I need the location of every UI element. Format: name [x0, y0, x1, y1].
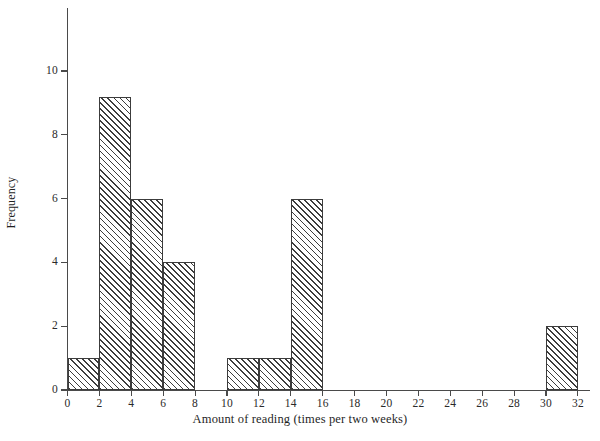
y-tick-label: 2 [32, 320, 58, 332]
x-tick [545, 391, 546, 396]
y-tick-label: 4 [32, 256, 58, 268]
x-tick-label: 10 [212, 397, 242, 409]
x-axis-line [67, 390, 590, 391]
x-tick-label: 20 [372, 397, 402, 409]
y-axis-line [67, 8, 68, 391]
x-tick-label: 6 [148, 397, 178, 409]
y-tick-label: 8 [32, 129, 58, 141]
y-tick-label-group: 2 [22, 320, 58, 332]
x-tick-label: 4 [116, 397, 146, 409]
x-tick [195, 391, 196, 396]
x-tick-label: 0 [53, 397, 83, 409]
histogram-chart: 0246810 02468101214161820222426283032 Fr… [0, 0, 600, 441]
histogram-bar [131, 199, 163, 390]
histogram-bar [259, 358, 291, 390]
x-tick-label: 2 [84, 397, 114, 409]
x-tick-label: 8 [180, 397, 210, 409]
y-axis-title: Frequency [4, 163, 19, 243]
x-tick [577, 391, 578, 396]
x-tick [386, 391, 387, 396]
x-tick [482, 391, 483, 396]
x-tick [67, 391, 68, 396]
x-tick [99, 391, 100, 396]
histogram-bar [227, 358, 259, 390]
x-tick [322, 391, 323, 396]
x-tick [450, 391, 451, 396]
x-axis-title: Amount of reading (times per two weeks) [0, 412, 600, 427]
x-tick [418, 391, 419, 396]
y-tick [61, 70, 67, 71]
x-tick [131, 391, 132, 396]
y-tick-label-group: 4 [22, 256, 58, 268]
y-tick-label-group: 6 [22, 193, 58, 205]
histogram-bar [163, 262, 195, 390]
x-tick-label: 14 [276, 397, 306, 409]
x-tick-label: 32 [563, 397, 593, 409]
histogram-bar [99, 97, 131, 390]
x-tick [163, 391, 164, 396]
y-tick-label-group: 10 [22, 65, 58, 77]
y-tick-label: 10 [32, 65, 58, 77]
x-tick [226, 391, 227, 396]
histogram-bar [68, 358, 100, 390]
x-tick-label: 12 [244, 397, 274, 409]
x-tick [354, 391, 355, 396]
x-tick [258, 391, 259, 396]
y-tick-label-group: 8 [22, 129, 58, 141]
histogram-bar [291, 199, 323, 390]
x-tick [290, 391, 291, 396]
x-tick [514, 391, 515, 396]
y-tick [61, 198, 67, 199]
x-tick-label: 18 [340, 397, 370, 409]
y-tick [61, 262, 67, 263]
histogram-bar [546, 326, 578, 390]
y-tick-label: 6 [32, 193, 58, 205]
x-tick-label: 30 [531, 397, 561, 409]
x-tick-label: 22 [403, 397, 433, 409]
x-tick-label: 26 [467, 397, 497, 409]
y-tick-label: 0 [32, 384, 58, 396]
y-tick [61, 326, 67, 327]
y-tick [61, 134, 67, 135]
x-tick-label: 28 [499, 397, 529, 409]
y-tick-label-group: 0 [22, 384, 58, 396]
x-tick-label: 16 [308, 397, 338, 409]
x-tick-label: 24 [435, 397, 465, 409]
